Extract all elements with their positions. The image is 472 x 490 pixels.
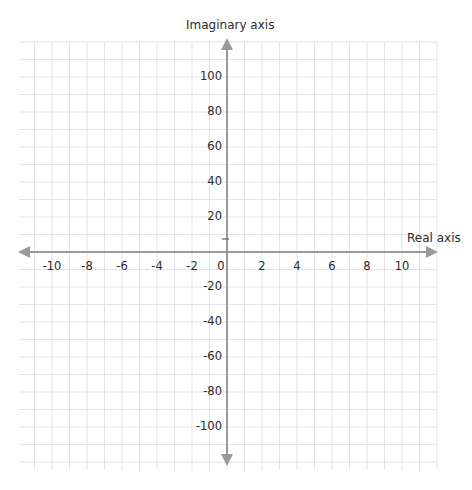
x-tick-label: 0 [217,261,224,273]
y-tick-label: 20 [207,211,222,223]
x-tick-label: 6 [328,261,335,273]
complex-plane-chart [0,0,472,490]
arrow-down-icon [221,454,233,466]
x-tick-label: 2 [258,261,265,273]
arrow-right-icon [426,246,438,258]
y-tick-label: -100 [196,421,222,433]
x-tick-label: 8 [363,261,370,273]
x-tick-label: -10 [43,261,62,273]
arrow-up-icon [221,38,233,50]
y-tick-label: -20 [203,281,222,293]
x-tick-label: 4 [293,261,300,273]
x-tick-label: -2 [186,261,197,273]
x-tick-label: -8 [81,261,92,273]
y-tick-label: -60 [203,351,222,363]
axes [18,38,438,466]
y-tick-label: 100 [200,71,222,83]
y-tick-label: 80 [207,106,222,118]
arrow-left-icon [18,246,30,258]
x-tick-label: 10 [395,261,410,273]
real-axis-label: Real axis [407,232,461,244]
y-tick-label: -40 [203,316,222,328]
x-tick-label: -4 [151,261,162,273]
y-tick-label: 60 [207,141,222,153]
y-tick-label: -80 [203,386,222,398]
y-tick-label: 40 [207,176,222,188]
x-tick-label: -6 [116,261,127,273]
imaginary-axis-label: Imaginary axis [186,19,274,31]
